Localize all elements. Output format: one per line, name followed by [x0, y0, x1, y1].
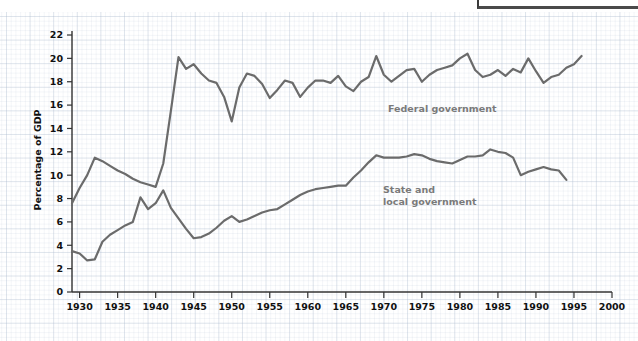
- y-tick-label: 6: [56, 216, 63, 227]
- y-tick-label: 12: [50, 146, 63, 157]
- y-tick-label: 22: [50, 29, 63, 40]
- x-tick-label: 1975: [409, 301, 435, 312]
- x-tick-label: 1955: [257, 301, 283, 312]
- x-tick-label: 1985: [485, 301, 511, 312]
- series-group: [72, 54, 582, 261]
- x-tick-label: 1960: [295, 301, 322, 312]
- series-label-state-line2: local government: [383, 196, 477, 207]
- x-tick-label: 1970: [371, 301, 398, 312]
- y-tick-label: 2: [56, 263, 63, 274]
- y-tick-label: 16: [50, 99, 64, 110]
- x-tick-label: 1935: [104, 301, 130, 312]
- series-label-state-line1: State and: [383, 184, 435, 195]
- line-chart-figure: 0246810121416182022193019351940194519501…: [0, 0, 638, 341]
- x-tick-label: 1945: [180, 301, 206, 312]
- chart-page: 0246810121416182022193019351940194519501…: [0, 0, 638, 341]
- x-tick-label: 1950: [218, 301, 245, 312]
- series-line-federal: [72, 54, 582, 204]
- x-tick-label: 1940: [142, 301, 169, 312]
- x-tick-label: 1995: [561, 301, 587, 312]
- y-tick-label: 4: [56, 240, 63, 251]
- x-tick-label: 1965: [333, 301, 359, 312]
- y-tick-label: 10: [50, 170, 64, 181]
- x-tick-label: 1980: [447, 301, 474, 312]
- y-tick-label: 18: [50, 76, 64, 87]
- series-line-state-local: [72, 149, 566, 260]
- y-tick-label: 14: [50, 123, 64, 134]
- y-tick-label: 20: [50, 53, 64, 64]
- x-tick-label: 1930: [66, 301, 93, 312]
- y-tick-label: 8: [56, 193, 63, 204]
- y-axis-title: Percentage of GDP: [32, 109, 43, 210]
- series-label-federal: Federal government: [388, 103, 497, 114]
- axes-group: 0246810121416182022193019351940194519501…: [50, 29, 626, 312]
- y-tick-label: 0: [56, 286, 63, 297]
- x-tick-label: 1990: [523, 301, 550, 312]
- x-tick-label: 2000: [599, 301, 626, 312]
